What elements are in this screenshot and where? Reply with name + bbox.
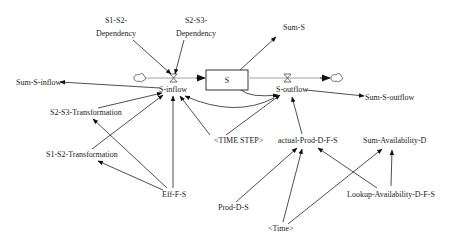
links <box>60 37 392 224</box>
prod-d-s-label: Prod-D-S <box>218 203 249 212</box>
s2-s3-transformation-label: S2-S3-Transformation <box>50 108 122 117</box>
s1-s2-transformation-label: S1-S2-Transformation <box>46 150 118 159</box>
time-step-label: <TIME STEP> <box>214 136 264 145</box>
link-outflow-to-sum-s-outflow <box>306 90 364 96</box>
source-cloud-icon <box>134 74 146 82</box>
link-stock-to-sum-s <box>240 37 276 70</box>
s-inflow-label: S-inflow <box>159 85 187 94</box>
link-s1s2trans-to-inflow <box>92 95 163 149</box>
link-inflow-to-sum-s-inflow <box>60 82 160 88</box>
link-s2s3trans-to-inflow <box>98 93 162 108</box>
time-label: <Time> <box>268 224 294 233</box>
link-stock-to-outflow <box>241 90 278 96</box>
sum-s-inflow-label: Sum-S-inflow <box>16 78 62 87</box>
link-prodds-to-actualprod <box>236 148 297 202</box>
sum-s-label: Sum-S <box>283 23 305 32</box>
actual-prod-d-f-s-label: actual-Prod-D-F-S <box>278 136 338 145</box>
link-lookup-to-actualprod <box>318 148 377 188</box>
link-outflow-to-inflow <box>185 96 274 108</box>
link-actualprod-to-outflow <box>292 97 302 134</box>
eff-f-s-label: Eff-F-S <box>162 190 186 199</box>
s-outflow-label: S-outflow <box>276 85 308 94</box>
link-timestep-to-outflow <box>226 95 280 135</box>
sink-cloud-icon <box>331 74 343 82</box>
link-time-to-actualprod <box>283 149 302 222</box>
link-s1s2dep-to-inflow <box>133 40 171 74</box>
link-timestep-to-inflow <box>180 96 210 135</box>
sum-s-outflow-label: Sum-S-outflow <box>365 93 415 102</box>
sum-availability-d-label: Sum-Availability-D <box>363 136 427 145</box>
link-lookup-to-sumavail <box>391 150 392 186</box>
s2-s3-dependency-label-line2: Dependency <box>176 29 216 38</box>
s1-s2-dependency-label-line2: Dependency <box>96 29 136 38</box>
link-time-to-sumavail <box>288 149 382 224</box>
lookup-availability-d-f-s-label: Lookup-Availability-D-F-S <box>347 190 435 199</box>
stock-flow-diagram: S S1-S2- Dependency S2-S3- Dependency Su… <box>0 0 452 247</box>
s1-s2-dependency-label-line1: S1-S2- <box>105 16 128 25</box>
link-s2s3dep-to-inflow <box>175 40 184 74</box>
stock-box[interactable]: S <box>206 70 248 90</box>
s2-s3-dependency-label-line1: S2-S3- <box>185 16 208 25</box>
stock-label: S <box>225 76 229 85</box>
